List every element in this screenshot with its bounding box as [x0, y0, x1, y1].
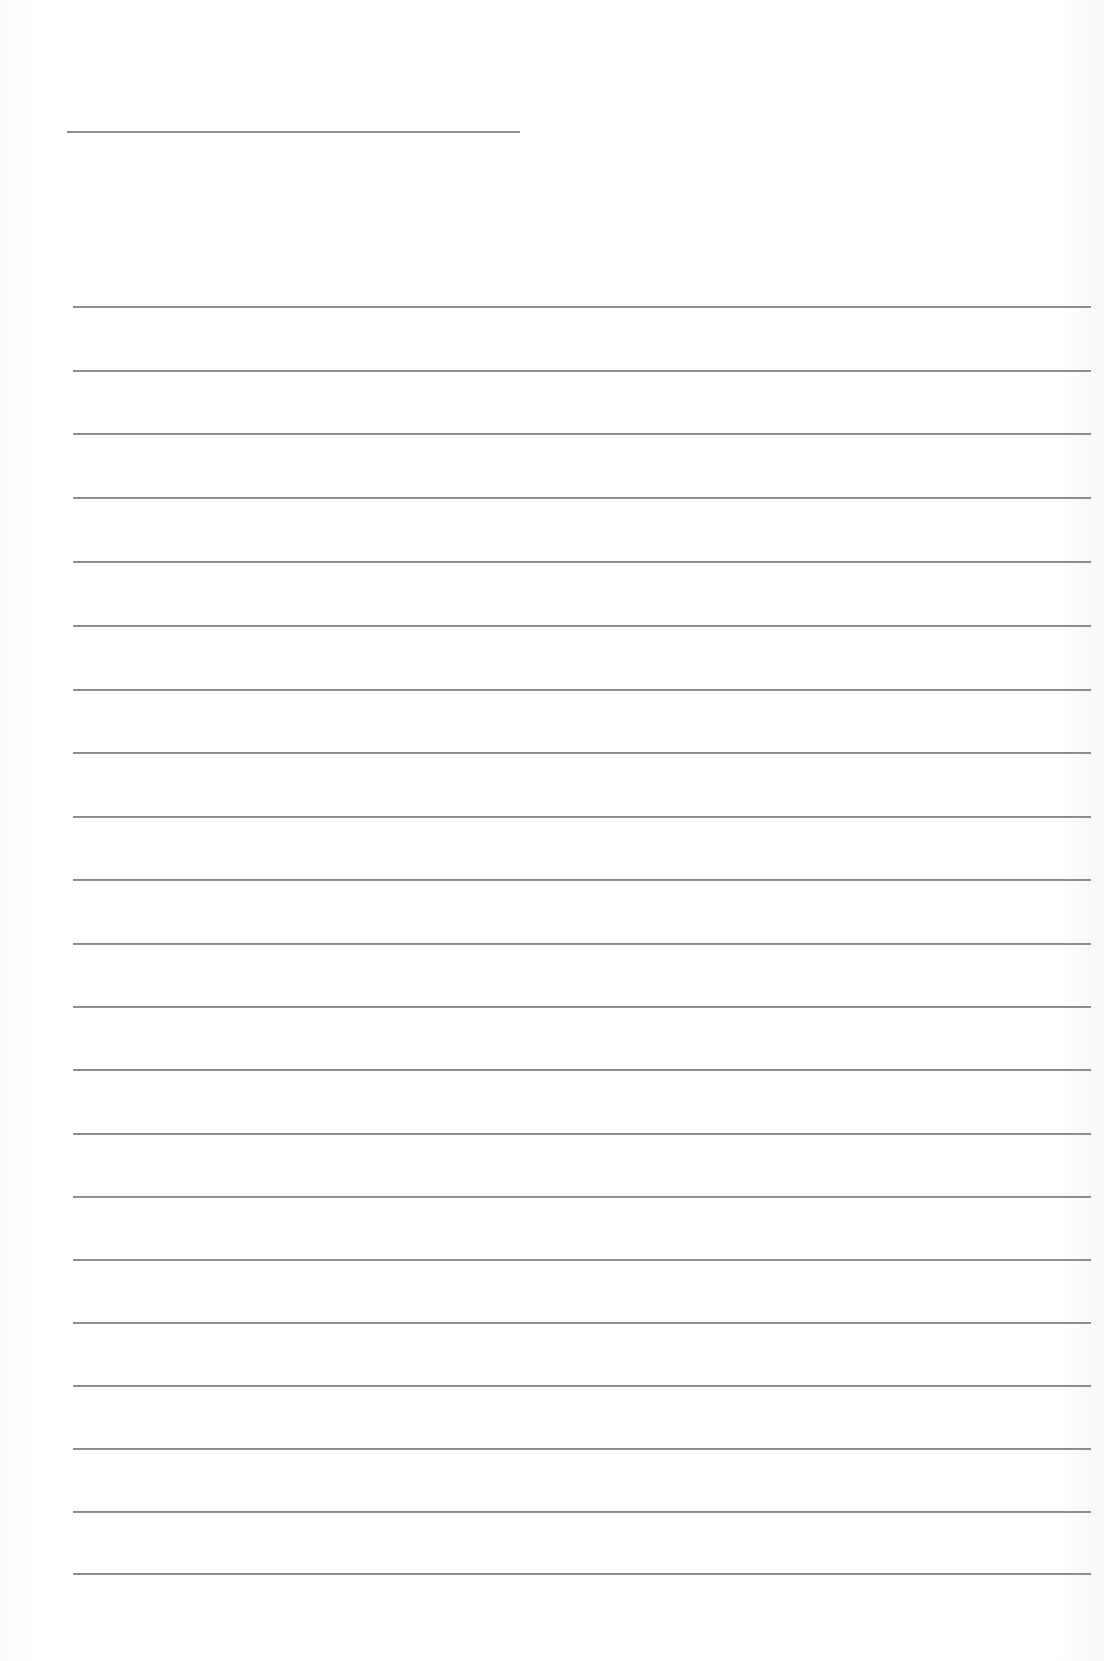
ruled-line	[73, 1069, 1091, 1071]
ruled-line	[73, 689, 1091, 691]
ruled-line	[73, 752, 1091, 754]
ruled-line	[73, 1006, 1091, 1008]
lined-page	[0, 0, 1104, 1661]
ruled-line	[73, 625, 1091, 627]
ruled-line	[73, 1573, 1091, 1575]
ruled-line	[73, 1259, 1091, 1261]
ruled-line	[73, 1196, 1091, 1198]
ruled-line	[73, 370, 1091, 372]
ruled-line	[73, 1511, 1091, 1513]
ruled-line	[73, 1133, 1091, 1135]
ruled-line	[73, 306, 1091, 308]
title-line	[67, 131, 520, 133]
ruled-line	[73, 561, 1091, 563]
ruled-line	[73, 879, 1091, 881]
ruled-line	[73, 943, 1091, 945]
ruled-line	[73, 1322, 1091, 1324]
ruled-line	[73, 816, 1091, 818]
ruled-line	[73, 1385, 1091, 1387]
ruled-line	[73, 1448, 1091, 1450]
ruled-line	[73, 433, 1091, 435]
ruled-line	[73, 497, 1091, 499]
